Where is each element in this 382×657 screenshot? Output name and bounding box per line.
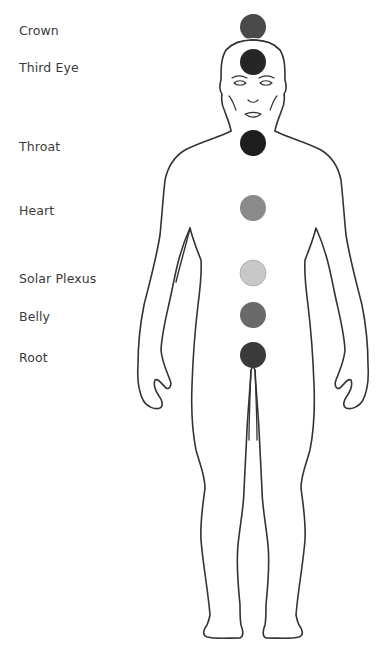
crown-chakra: [240, 14, 266, 40]
heart-chakra: [240, 195, 266, 221]
belly-chakra: [240, 302, 266, 328]
human-body-outline: [0, 0, 382, 657]
third-eye-chakra: [240, 49, 266, 75]
throat-chakra: [240, 130, 266, 156]
chakra-points: [240, 14, 266, 368]
root-chakra: [240, 342, 266, 368]
solar-plexus-chakra: [240, 260, 266, 286]
